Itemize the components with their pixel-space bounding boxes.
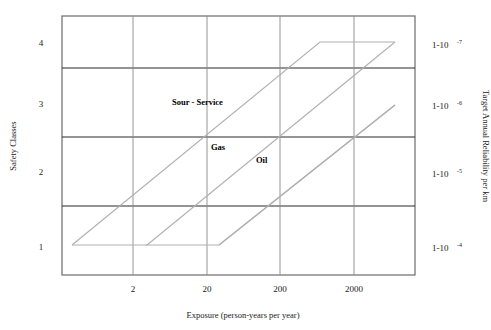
x-axis-title: Exposure (person-years per year) <box>186 310 299 320</box>
sour-service-lower-edge <box>147 42 395 245</box>
y-axis-right-title: Target Annual Reliability per km <box>481 90 491 202</box>
y-left-tick-2: 2 <box>39 167 44 177</box>
series-band-gas <box>146 105 395 245</box>
y-left-tick-3: 3 <box>39 99 44 109</box>
y-left-tick-4: 4 <box>39 38 44 48</box>
y-right-tick-1e-4-mantissa: 1-10 <box>432 243 449 253</box>
safety-class-exposure-chart: 4 3 2 1 Safety Classes 1-10 -7 1-10 -6 1… <box>0 0 491 330</box>
oil-edge <box>219 105 395 245</box>
y-right-tick-1e-7-exponent: -7 <box>457 39 462 45</box>
y-right-tick-1e-6: 1-10 -6 <box>432 100 462 111</box>
y-axis-left-title: Safety Classes <box>8 121 18 170</box>
y-right-tick-1e-4-exponent: -4 <box>457 242 462 248</box>
y-right-tick-1e-5: 1-10 -5 <box>432 168 462 179</box>
y-right-tick-1e-5-exponent: -5 <box>457 168 462 174</box>
series-label-sour-service: Sour - Service <box>172 97 223 107</box>
y-right-tick-1e-6-mantissa: 1-10 <box>432 101 449 111</box>
y-right-tick-1e-7-mantissa: 1-10 <box>432 40 449 50</box>
y-right-tick-1e-7: 1-10 -7 <box>432 39 462 50</box>
vertical-gridlines <box>133 16 354 275</box>
series-label-gas: Gas <box>211 142 226 152</box>
x-tick-2: 2 <box>131 284 136 294</box>
horizontal-gridlines <box>62 68 415 206</box>
plot-frame <box>62 16 415 275</box>
chart-container: 4 3 2 1 Safety Classes 1-10 -7 1-10 -6 1… <box>0 0 491 330</box>
y-left-tick-1: 1 <box>39 242 44 252</box>
y-right-tick-1e-6-exponent: -6 <box>457 100 462 106</box>
x-tick-20: 20 <box>203 284 213 294</box>
y-right-tick-1e-4: 1-10 -4 <box>432 242 462 253</box>
series-label-oil: Oil <box>256 155 268 165</box>
series-band-oil <box>219 105 395 245</box>
x-tick-200: 200 <box>273 284 287 294</box>
x-tick-2000: 2000 <box>345 284 364 294</box>
y-right-tick-1e-5-mantissa: 1-10 <box>432 169 449 179</box>
